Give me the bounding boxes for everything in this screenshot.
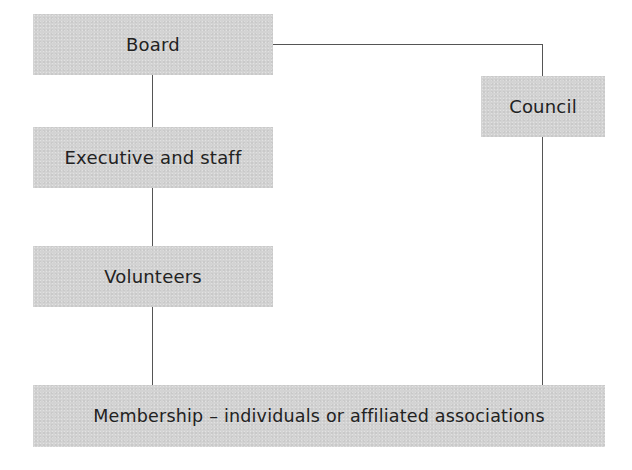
connector-board-executive — [152, 75, 153, 127]
node-board-label: Board — [126, 34, 180, 55]
connector-council-membership — [542, 137, 543, 385]
connector-volunteers-membership — [152, 307, 153, 385]
node-volunteers-label: Volunteers — [104, 266, 202, 287]
node-board: Board — [33, 14, 273, 75]
connector-board-council-vertical — [542, 44, 543, 76]
node-executive-label: Executive and staff — [65, 147, 242, 168]
node-council-label: Council — [509, 96, 577, 117]
connector-board-council-horizontal — [273, 44, 543, 45]
node-membership: Membership – individuals or affiliated a… — [33, 385, 605, 447]
node-council: Council — [481, 76, 605, 137]
node-volunteers: Volunteers — [33, 246, 273, 307]
org-diagram: Board Council Executive and staff Volunt… — [0, 0, 632, 470]
node-membership-label: Membership – individuals or affiliated a… — [93, 406, 544, 426]
node-executive-and-staff: Executive and staff — [33, 127, 273, 188]
connector-executive-volunteers — [152, 188, 153, 246]
